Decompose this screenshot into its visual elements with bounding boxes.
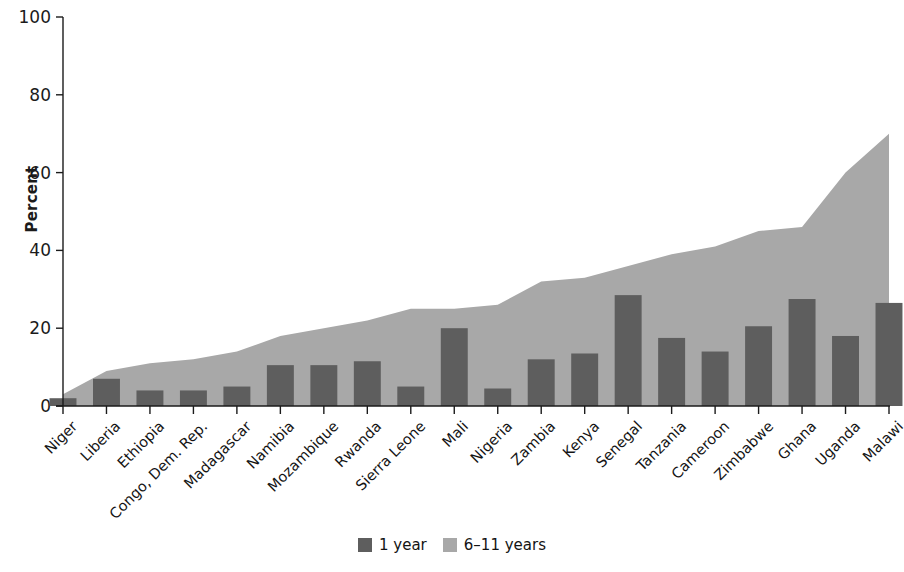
- bar-kenya: [571, 353, 598, 406]
- bar-uganda: [832, 336, 859, 406]
- bar-sierra-leone: [397, 387, 424, 406]
- legend-item-6-11-years: 6–11 years: [443, 536, 546, 554]
- chart-container: Percent 020406080100 NigerLiberiaEthiopi…: [0, 0, 904, 572]
- bar-ghana: [789, 299, 816, 406]
- bar-liberia: [93, 379, 120, 406]
- bar-ethiopia: [136, 390, 163, 406]
- bar-zimbabwe: [745, 326, 772, 406]
- legend-label: 6–11 years: [464, 536, 546, 554]
- bar-namibia: [267, 365, 294, 406]
- bar-cameroon: [702, 352, 729, 406]
- legend-swatch-icon: [358, 538, 372, 552]
- bar-zambia: [528, 359, 555, 406]
- bar-congo-dem-rep: [180, 390, 207, 406]
- chart-legend: 1 year6–11 years: [0, 536, 904, 554]
- bar-nigeria: [484, 389, 511, 407]
- bar-senegal: [615, 295, 642, 406]
- plot-area: [0, 0, 904, 572]
- bar-rwanda: [354, 361, 381, 406]
- legend-item-1-year: 1 year: [358, 536, 427, 554]
- bar-tanzania: [658, 338, 685, 406]
- bar-malawi: [876, 303, 903, 406]
- bar-mali: [441, 328, 468, 406]
- legend-label: 1 year: [379, 536, 427, 554]
- bar-mozambique: [310, 365, 337, 406]
- bar-madagascar: [223, 387, 250, 406]
- legend-swatch-icon: [443, 538, 457, 552]
